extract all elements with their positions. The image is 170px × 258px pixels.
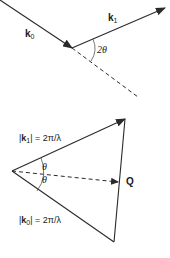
k0-triangle-side xyxy=(12,171,114,242)
k0-label: k0 xyxy=(25,29,34,40)
scattering-angle-arc xyxy=(91,39,95,61)
k1-label: k1 xyxy=(108,13,117,24)
k0-magnitude-label: |k0| = 2π/λ xyxy=(19,216,61,226)
k1-magnitude-label: |k1| = 2π/λ xyxy=(19,134,61,144)
scattering-angle-label: 2θ xyxy=(97,45,107,55)
q-label: Q xyxy=(126,177,134,187)
k1-triangle-side xyxy=(12,119,125,171)
k0-mag-value: | = 2π/λ xyxy=(30,215,61,225)
upper-theta-label: θ xyxy=(42,162,47,172)
k0-subscript: 0 xyxy=(31,33,35,40)
lower-theta-label: θ xyxy=(42,175,47,185)
q-scattering-vector xyxy=(114,119,125,242)
k0-continuation-dashed xyxy=(72,48,138,97)
k0-incident-vector xyxy=(0,0,72,48)
k1-scattered-vector xyxy=(72,8,165,48)
k1-subscript: 1 xyxy=(114,17,118,24)
k1-mag-value: | = 2π/λ xyxy=(30,133,61,143)
bisector-dashed xyxy=(12,171,118,182)
